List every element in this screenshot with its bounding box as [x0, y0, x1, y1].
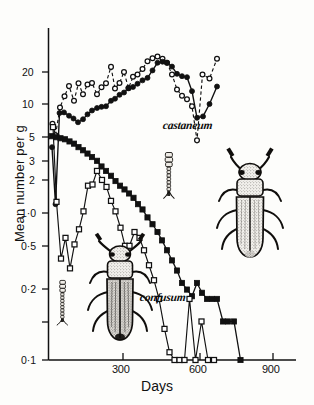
data-point [117, 81, 122, 86]
data-point [109, 198, 114, 203]
data-point [103, 168, 108, 173]
data-point [81, 92, 86, 97]
data-point [135, 72, 140, 77]
data-point [179, 280, 184, 285]
data-point [109, 64, 114, 69]
data-point [131, 195, 136, 200]
data-point [145, 59, 150, 64]
chart-canvas [0, 0, 314, 405]
data-point [113, 209, 118, 214]
y-axis-title: Mean number per g [12, 109, 27, 259]
data-point [122, 70, 127, 75]
data-point [108, 173, 113, 178]
ytick-label-0-1: 0·1 [21, 354, 36, 366]
data-point [185, 75, 190, 80]
data-point [72, 242, 77, 247]
data-point [209, 296, 214, 301]
data-point [90, 108, 95, 113]
data-point [195, 138, 200, 143]
data-point [131, 84, 136, 89]
data-point [170, 72, 175, 77]
data-point [187, 296, 192, 301]
antenna-castaneum-icon [163, 153, 174, 199]
data-point [238, 357, 243, 362]
annotation-castaneum: castaneum [162, 119, 213, 131]
x-axis-title: Days [0, 378, 314, 394]
annotation-confusum: confusum [139, 291, 186, 303]
data-point [145, 215, 150, 220]
markers-castaneum-filled-circle [50, 59, 220, 206]
ytick-label-5: 5 [29, 131, 35, 143]
data-point [150, 68, 155, 73]
data-point [77, 227, 82, 232]
data-point [190, 89, 195, 94]
data-point [162, 326, 167, 331]
data-point [113, 86, 118, 91]
data-point [214, 296, 219, 301]
data-point [99, 85, 104, 90]
ytick-label-2: 2 [29, 174, 35, 186]
data-point [199, 290, 204, 295]
data-point [180, 74, 185, 79]
data-point [200, 72, 205, 77]
data-point [190, 104, 195, 109]
data-point [215, 84, 220, 89]
y-tick-marks [42, 72, 49, 360]
data-point [59, 256, 64, 261]
data-point [95, 168, 100, 173]
data-point [150, 56, 155, 61]
data-point [122, 90, 127, 95]
data-point [169, 258, 174, 263]
data-point [207, 102, 212, 107]
data-point [155, 60, 160, 65]
figure-container: 20 10 5 3 2 1·0 0·5 0·2 0·1 300 600 900 … [0, 0, 314, 405]
data-point [225, 319, 230, 324]
data-point [182, 358, 187, 363]
data-point [212, 358, 217, 363]
data-point [95, 92, 100, 97]
data-point [62, 94, 67, 99]
data-point [76, 81, 81, 86]
data-point [104, 81, 109, 86]
data-point [199, 319, 204, 324]
data-point [85, 112, 90, 117]
data-point [140, 78, 145, 83]
data-point [51, 125, 56, 130]
data-point [204, 296, 209, 301]
data-point [159, 238, 164, 243]
data-point [147, 263, 152, 268]
data-point [67, 113, 72, 118]
data-point [135, 81, 140, 86]
data-point [170, 64, 175, 69]
data-point [132, 230, 137, 235]
data-point [113, 96, 118, 101]
data-point [220, 319, 225, 324]
data-point [177, 358, 182, 363]
data-point [167, 350, 172, 355]
data-point [155, 54, 160, 59]
data-point [100, 177, 105, 182]
data-point [127, 243, 132, 248]
data-point [71, 116, 76, 121]
data-point [193, 358, 198, 363]
xtick-label-300: 300 [112, 363, 129, 375]
data-point [104, 104, 109, 109]
data-point [172, 358, 177, 363]
data-point [165, 60, 170, 65]
markers-confusum-open-square [51, 125, 217, 363]
data-point [231, 319, 236, 324]
data-point [68, 266, 73, 271]
data-point [72, 98, 77, 103]
data-point [152, 278, 157, 283]
data-point [104, 184, 109, 189]
data-point [58, 105, 63, 110]
data-point [206, 358, 211, 363]
data-point [140, 67, 145, 72]
data-point [118, 225, 123, 230]
data-point [94, 158, 99, 163]
data-point [135, 202, 140, 207]
data-point [140, 207, 145, 212]
data-point [89, 154, 94, 159]
data-point [175, 71, 180, 76]
data-point [63, 235, 68, 240]
